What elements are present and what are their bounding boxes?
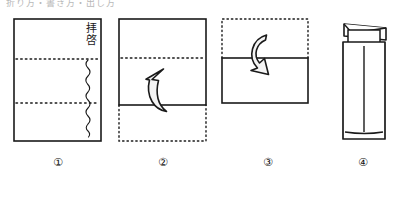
step-number-3: ③	[257, 152, 279, 174]
sheet-visible-part	[119, 19, 206, 105]
figure-canvas: 折り方・書き方・出し方	[0, 0, 401, 205]
letter-salutation: 拝啓	[84, 22, 96, 46]
step-4-insert-into-envelope	[343, 24, 386, 139]
step-number-2: ②	[152, 152, 174, 174]
step-number-4: ④	[352, 152, 374, 174]
step-number-1: ①	[47, 152, 69, 174]
folding-diagram	[0, 0, 401, 205]
step-2-fold-bottom-up	[119, 19, 206, 141]
step-3-fold-top-down	[222, 19, 308, 103]
